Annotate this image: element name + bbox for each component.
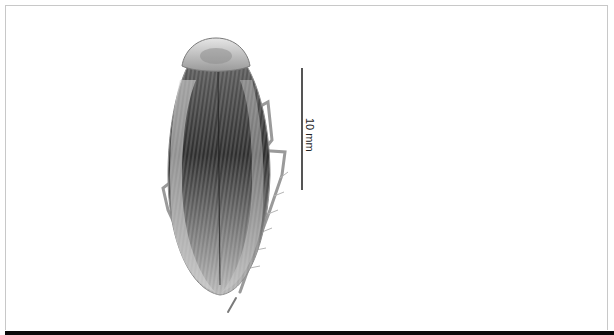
- specimen-plate: [0, 0, 614, 335]
- dorsal-view: [163, 38, 288, 312]
- scale-bar-label: 10 mm: [300, 112, 330, 152]
- bottom-border-bar: [5, 331, 614, 335]
- scale-bar-text: 10 mm: [304, 118, 316, 152]
